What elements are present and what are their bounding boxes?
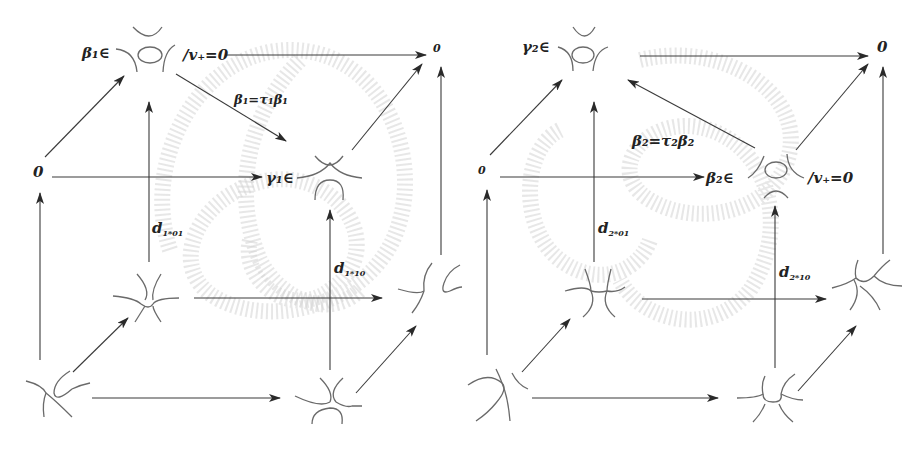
- label-d2-01: d2*01: [598, 219, 629, 238]
- background-knot-right: [530, 56, 791, 320]
- label-beta-tau-beta-left: β₁=τ₁β₁: [233, 92, 288, 107]
- resolution-bottom-front-left: [26, 371, 90, 417]
- label-beta2-in: β₂∈: [705, 169, 734, 187]
- arrow-mid-right-to-top-right: [352, 64, 422, 150]
- right-cube: γ₂∈ 0 β₂=τ₂β₂ 0 β₂∈ /v₊=0 d2*01 d2*10: [468, 27, 902, 422]
- label-gamma1-in: γ₁∈: [266, 169, 294, 187]
- label-beta1-in: β₁∈: [81, 44, 110, 62]
- arrow-bottom-front-right-to-back-right: [356, 326, 416, 393]
- resolution-bottom-front-left-right-cube: [468, 369, 528, 421]
- label-zero-top-right-left: 0: [433, 42, 441, 55]
- left-cube: β₁∈ /v₊=0 0 β₁=τ₁β₁ 0 γ₁∈ d1*01 d1*10: [26, 27, 462, 424]
- resolution-bottom-back-left-right-cube: [565, 269, 625, 317]
- arrow-bottom-front-left-to-back-left: [73, 318, 128, 372]
- label-d2-10: d2*10: [779, 263, 811, 282]
- arrow-bottom-front-right-to-back-right-right-cube: [798, 326, 856, 391]
- label-d1-01: d1*01: [152, 219, 183, 238]
- diagram-canvas: β₁∈ /v₊=0 0 β₁=τ₁β₁ 0 γ₁∈ d1*01 d1*10: [0, 0, 923, 451]
- label-v-plus-zero-right: /v₊=0: [806, 169, 854, 187]
- arrow-mid-right-to-top-right-right-cube: [796, 64, 868, 150]
- resolution-bottom-back-right: [398, 263, 462, 313]
- label-zero-top-right-right: 0: [877, 38, 888, 56]
- resolution-top-left: [116, 27, 175, 72]
- label-beta-tau-beta-right: β₂=τ₂β₂: [631, 132, 695, 150]
- arrow-top-left-to-mid-right: [176, 74, 286, 141]
- resolution-bottom-back-right-right-cube: [832, 260, 902, 310]
- label-v-plus-zero-left: /v₊=0: [181, 46, 229, 64]
- resolution-bottom-front-right: [295, 378, 362, 424]
- resolution-bottom-front-right-right-cube: [737, 374, 803, 422]
- arrow-bottom-front-left-to-back-left-right-cube: [522, 319, 570, 372]
- resolution-bottom-back-left: [113, 274, 179, 322]
- label-zero-mid-left-right: 0: [478, 164, 486, 177]
- label-zero-mid-left-left: 0: [33, 163, 44, 181]
- label-gamma2-in: γ₂∈: [522, 38, 550, 56]
- arrow-mid-left-to-top-left: [45, 76, 124, 157]
- resolution-top-left-right-cube: [558, 27, 608, 71]
